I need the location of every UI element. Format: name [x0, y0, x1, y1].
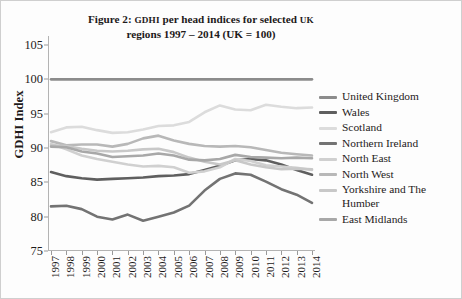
legend-swatch-icon: [319, 142, 337, 145]
series-line: [51, 173, 312, 220]
x-tick-mark: [66, 251, 67, 255]
legend-label: North East: [342, 151, 391, 165]
legend-item[interactable]: Wales: [319, 105, 459, 119]
x-tick-label: 2010: [249, 256, 260, 278]
x-tick-label: 1997: [50, 256, 61, 278]
legend-label: Wales: [342, 105, 370, 119]
legend-item[interactable]: United Kingdom: [319, 89, 459, 103]
legend-swatch-icon: [319, 127, 337, 130]
x-tick-mark: [128, 251, 129, 255]
y-axis-label: GDHI Index: [12, 75, 27, 175]
legend-swatch-icon: [319, 111, 337, 114]
legend-label: East Midlands: [342, 212, 408, 226]
title-line-2: regions 1997 – 2014 (UK = 100): [126, 28, 275, 40]
x-tick-label: 2013: [295, 256, 306, 278]
y-tick-label: 75: [31, 245, 43, 257]
title-smallcaps-uk: UK: [300, 15, 314, 25]
x-tick-label: 2004: [157, 256, 168, 278]
x-tick-label: 2009: [234, 256, 245, 278]
legend-item[interactable]: Scotland: [319, 120, 459, 134]
legend-swatch-icon: [319, 189, 337, 192]
x-tick-mark: [189, 251, 190, 255]
legend-swatch-icon: [319, 218, 337, 221]
legend-label: North West: [342, 167, 394, 181]
x-tick-label: 2011: [264, 256, 275, 278]
x-tick-label: 2008: [218, 256, 229, 278]
figure-title: Figure 2: GDHI per head indices for sele…: [53, 12, 349, 41]
x-tick-label: 2003: [142, 256, 153, 278]
legend-label: Yorkshire and The Humber: [342, 182, 459, 210]
x-tick-label: 2001: [111, 256, 122, 278]
x-tick-mark: [97, 251, 98, 255]
y-tick-label: 80: [31, 210, 43, 222]
legend-swatch-icon: [319, 158, 337, 161]
x-tick-mark: [312, 251, 313, 255]
x-tick-mark: [174, 251, 175, 255]
series-line: [51, 105, 312, 133]
x-tick-mark: [112, 251, 113, 255]
x-tick-label: 2012: [280, 256, 291, 278]
legend-swatch-icon: [319, 96, 337, 99]
x-tick-mark: [281, 251, 282, 255]
y-tick-label: 100: [24, 73, 43, 85]
legend-label: United Kingdom: [342, 89, 419, 103]
legend-label: Scotland: [342, 120, 382, 134]
x-tick-mark: [158, 251, 159, 255]
x-tick-mark: [205, 251, 206, 255]
y-tick-label: 105: [24, 39, 43, 51]
title-middle: per head indices for selected: [160, 13, 300, 25]
legend-item[interactable]: North East: [319, 151, 459, 165]
x-tick-mark: [266, 251, 267, 255]
x-tick-mark: [143, 251, 144, 255]
line-chart-svg: [48, 45, 315, 251]
legend-item[interactable]: Yorkshire and The Humber: [319, 182, 459, 210]
title-smallcaps-gdhi: GDHI: [134, 15, 159, 25]
x-tick-mark: [82, 251, 83, 255]
y-tick-label: 95: [31, 107, 43, 119]
x-tick-label: 2006: [188, 256, 199, 278]
legend-item[interactable]: Northern Ireland: [319, 136, 459, 150]
x-tick-mark: [235, 251, 236, 255]
x-tick-label: 2014: [311, 256, 322, 278]
plot-area: 7580859095100105 19971998199920002001200…: [48, 45, 315, 251]
x-tick-mark: [251, 251, 252, 255]
title-prefix: Figure 2:: [88, 13, 134, 25]
x-tick-label: 1998: [65, 256, 76, 278]
y-tick-label: 90: [31, 142, 43, 154]
legend-swatch-icon: [319, 173, 337, 176]
x-tick-mark: [220, 251, 221, 255]
x-tick-label: 2007: [203, 256, 214, 278]
legend-item[interactable]: East Midlands: [319, 212, 459, 226]
x-tick-mark: [297, 251, 298, 255]
x-tick-label: 1999: [80, 256, 91, 278]
y-tick-label: 85: [31, 176, 43, 188]
x-tick-label: 2005: [172, 256, 183, 278]
x-tick-mark: [51, 251, 52, 255]
figure-container: Figure 2: GDHI per head indices for sele…: [0, 0, 462, 299]
x-tick-label: 2002: [126, 256, 137, 278]
legend-item[interactable]: North West: [319, 167, 459, 181]
chart-legend: United KingdomWalesScotlandNorthern Irel…: [319, 89, 459, 227]
x-tick-label: 2000: [96, 256, 107, 278]
legend-label: Northern Ireland: [342, 136, 418, 150]
